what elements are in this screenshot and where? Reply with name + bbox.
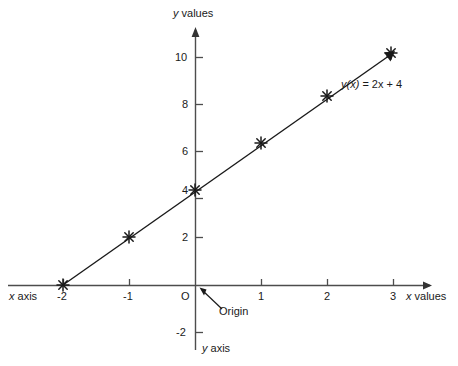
x-axis-arrowhead xyxy=(423,282,432,290)
x-tick-label-minus-1: -1 xyxy=(123,291,133,302)
chart-figure: y values y(x) = 2x + 4 10 8 6 4 2 -2 -2 … xyxy=(0,0,458,366)
y-tick-label-2: 2 xyxy=(182,232,188,243)
y-axis-title-text: values xyxy=(179,7,214,19)
equation-x-argument: (x) xyxy=(347,78,360,90)
x-tick-label-3: 3 xyxy=(390,291,396,302)
equation-label: y(x) = 2x + 4 xyxy=(341,79,402,90)
y-axis-arrowhead xyxy=(192,27,200,37)
data-point-marker xyxy=(123,231,135,243)
data-point-marker xyxy=(321,90,333,102)
data-point-marker xyxy=(255,137,267,149)
x-tick-label-minus-2: -2 xyxy=(57,291,67,302)
x-tick-label-2: 2 xyxy=(324,291,330,302)
x-axis-name: x axis xyxy=(9,291,37,302)
y-axis-name: y axis xyxy=(202,343,230,354)
origin-annotation-label: Origin xyxy=(219,306,248,317)
origin-label: O xyxy=(181,291,190,302)
y-tick-label-8: 8 xyxy=(182,99,188,110)
y-axis-title: y values xyxy=(173,8,213,19)
x-tick-label-1: 1 xyxy=(258,291,264,302)
y-tick-label-10: 10 xyxy=(175,52,187,63)
x-tick-marks xyxy=(64,279,394,286)
y-tick-label-6: 6 xyxy=(182,146,188,157)
y-axis-name-text: axis xyxy=(208,342,231,354)
x-axis-title-text: values xyxy=(412,290,447,302)
data-point-marker xyxy=(385,47,397,59)
data-point-marker xyxy=(189,184,201,196)
x-axis-title: x values xyxy=(406,291,446,302)
y-tick-label-4: 4 xyxy=(182,185,188,196)
equation-rhs: = 2x + 4 xyxy=(359,78,402,90)
y-tick-label-minus-2: -2 xyxy=(176,327,186,338)
x-axis-name-text: axis xyxy=(15,290,38,302)
